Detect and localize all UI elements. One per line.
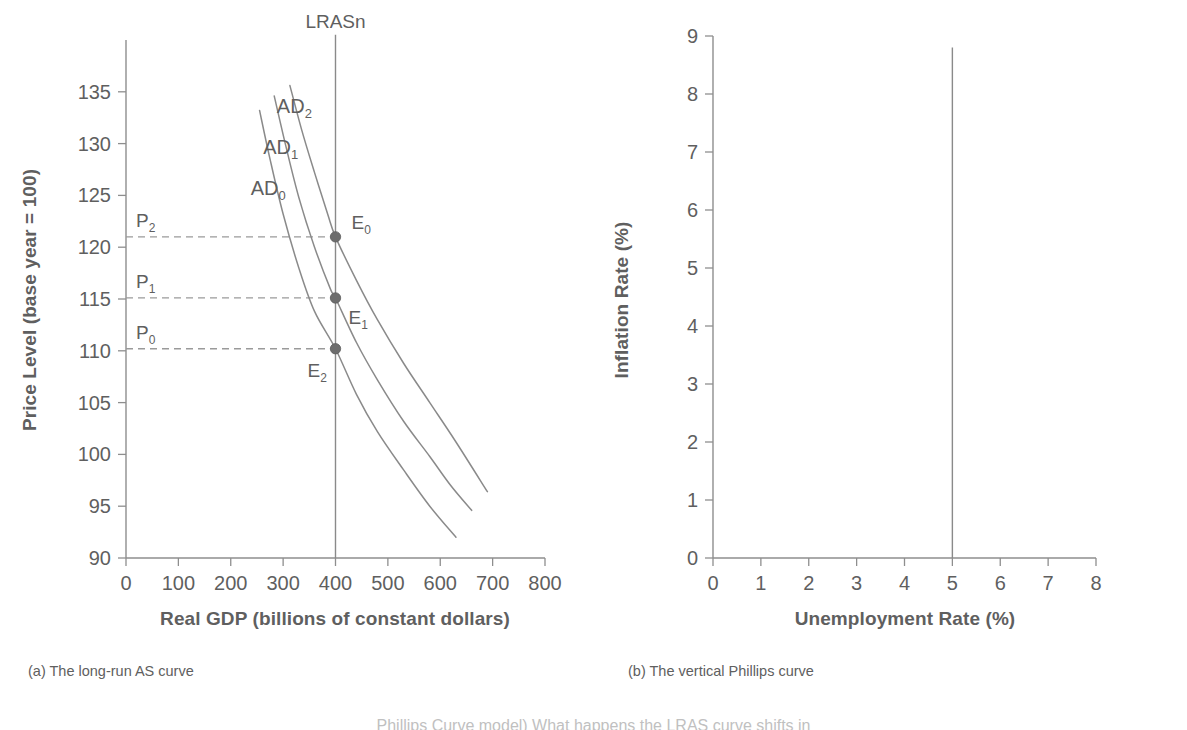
x-axis-title-b: Unemployment Rate (%) xyxy=(795,608,1016,629)
lras-label: LRASn xyxy=(305,11,365,32)
panel-a-xtick-label: 600 xyxy=(424,572,457,594)
panel-b-ytick-label: 3 xyxy=(687,373,698,395)
y-axis-title-a: Price Level (base year = 100) xyxy=(19,169,40,431)
panel-a-xtick-label: 400 xyxy=(319,572,352,594)
panel-a-ytick-label: 115 xyxy=(79,288,111,310)
panel-a-xtick-label: 700 xyxy=(476,572,509,594)
panel-b-xtick-label: 0 xyxy=(707,572,718,594)
panel-b-xtick-label: 2 xyxy=(803,572,814,594)
panel-a-xtick-label: 800 xyxy=(528,572,561,594)
panel-a-xtick-label: 0 xyxy=(120,572,131,594)
panel-b-xtick-label: 6 xyxy=(995,572,1006,594)
chart-panel-b: 0123456789 012345678 Unemployment Rate (… xyxy=(600,0,1187,660)
panel-a-xtick-label: 300 xyxy=(266,572,299,594)
chart-panel-a: 9095100105110115120125130135 01002003004… xyxy=(0,0,600,660)
x-axis-ticks-b: 012345678 xyxy=(707,558,1101,594)
curve-AD_2 xyxy=(290,86,487,492)
panel-b-ytick-label: 5 xyxy=(687,257,698,279)
panel-b-ytick-label: 6 xyxy=(687,199,698,221)
panel-a-ytick-label: 135 xyxy=(78,81,111,103)
panel-a-ytick-label: 100 xyxy=(78,443,111,465)
panel-a-ytick-label: 120 xyxy=(78,236,111,258)
panel-b-ytick-label: 2 xyxy=(687,431,698,453)
panel-b-ytick-label: 8 xyxy=(687,83,698,105)
panel-b-xtick-label: 4 xyxy=(899,572,910,594)
panel-b-axes xyxy=(713,36,1096,558)
panel-a-xtick-label: 500 xyxy=(371,572,404,594)
panel-b-ytick-label: 9 xyxy=(687,25,698,47)
panel-b-xtick-label: 8 xyxy=(1090,572,1101,594)
curve-label-AD_0: AD0 xyxy=(251,177,286,203)
panel-a-ytick-label: 90 xyxy=(89,547,111,569)
panel-b-xtick-label: 1 xyxy=(755,572,766,594)
panel-b-xtick-label: 5 xyxy=(947,572,958,594)
price-guide-lines-a xyxy=(126,237,336,349)
price-label-P_2: P2 xyxy=(136,210,156,235)
price-label-P_0: P0 xyxy=(136,322,156,347)
panel-a-ytick-label: 105 xyxy=(78,392,111,414)
panel-a-caption: (a) The long-run AS curve xyxy=(28,663,194,679)
equilibrium-dot-E_0 xyxy=(330,232,340,242)
cut-off-body-text: Phillips Curve model) What happens the L… xyxy=(0,716,1187,730)
panel-b-ytick-label: 1 xyxy=(687,489,698,511)
curve-AD_1 xyxy=(274,96,471,510)
figure-container: 9095100105110115120125130135 01002003004… xyxy=(0,0,1187,730)
price-label-P_1: P1 xyxy=(136,271,156,296)
panel-a-ytick-label: 95 xyxy=(89,495,111,517)
point-label-E_1: E1 xyxy=(349,307,369,332)
panel-b-xtick-label: 3 xyxy=(851,572,862,594)
point-label-E_2: E2 xyxy=(308,360,328,385)
x-axis-ticks-a: 0100200300400500600700800 xyxy=(120,558,561,594)
panel-b-xtick-label: 7 xyxy=(1043,572,1054,594)
y-axis-ticks-b: 0123456789 xyxy=(687,25,713,569)
equilibrium-dot-E_2 xyxy=(330,344,340,354)
x-axis-title-a: Real GDP (billions of constant dollars) xyxy=(160,608,510,629)
panel-a-ytick-label: 110 xyxy=(79,340,111,362)
point-label-E_0: E0 xyxy=(352,212,372,237)
panel-a-ytick-label: 125 xyxy=(78,184,111,206)
panel-b-caption: (b) The vertical Phillips curve xyxy=(628,663,814,679)
panel-a-xtick-label: 200 xyxy=(214,572,247,594)
panel-b-ytick-label: 0 xyxy=(687,547,698,569)
panel-b-ytick-label: 4 xyxy=(687,315,698,337)
panel-b-ytick-label: 7 xyxy=(687,141,698,163)
y-axis-ticks-a: 9095100105110115120125130135 xyxy=(78,81,126,569)
curve-label-AD_1: AD1 xyxy=(263,136,298,162)
curve-label-AD_2: AD2 xyxy=(277,95,312,121)
y-axis-title-b: Inflation Rate (%) xyxy=(611,222,632,379)
equilibrium-dot-E_1 xyxy=(330,293,340,303)
panel-a-xtick-label: 100 xyxy=(162,572,195,594)
panel-a-ytick-label: 130 xyxy=(78,133,111,155)
